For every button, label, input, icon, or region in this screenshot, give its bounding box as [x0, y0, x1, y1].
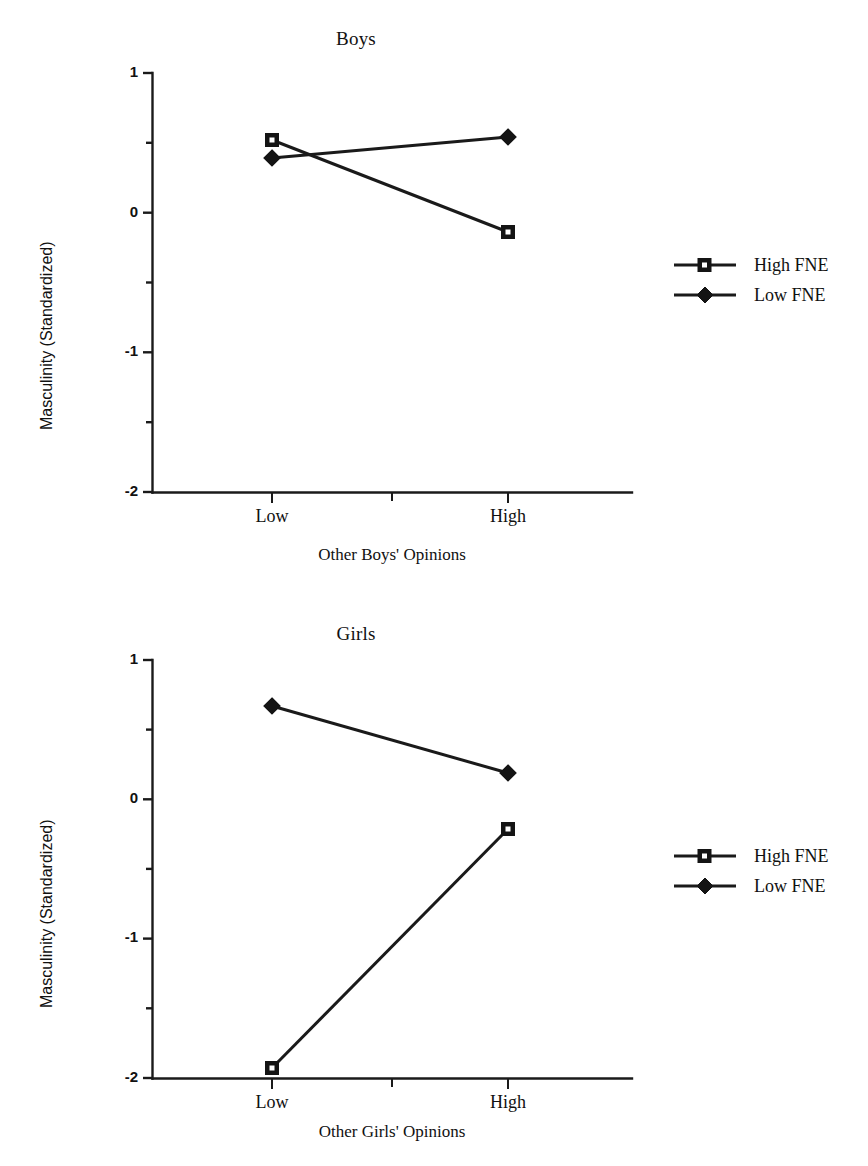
panel-boys-series-low-fne-line: [272, 137, 508, 158]
legend-label-high-fne: High FNE: [738, 846, 829, 867]
legend-row-low-fne: Low FNE: [672, 871, 868, 901]
legend-row-high-fne: High FNE: [672, 841, 868, 871]
panel-boys-legend: High FNE Low FNE: [672, 250, 868, 310]
panel-boys-x-axis-title: Other Boys' Opinions: [192, 545, 592, 565]
panel-girls-xtick-label-low: Low: [227, 1092, 317, 1113]
panel-boys-xtick-label-high: High: [463, 506, 553, 527]
panel-boys-marker-low-fne-high: [500, 129, 516, 145]
legend-sample-low-fne: [672, 874, 738, 898]
legend-sample-high-fne: [672, 253, 738, 277]
panel-girls-marker-high-fne-high: [502, 823, 515, 836]
figure-two-panel-line-charts: Boys Masculinity (Standardized) 1 0 -1 -…: [0, 0, 868, 1166]
panel-boys-marker-low-fne-low: [264, 150, 280, 166]
legend-row-low-fne: Low FNE: [672, 280, 868, 310]
panel-girls-marker-low-fne-high: [500, 765, 516, 781]
legend-sample-low-fne: [672, 283, 738, 307]
panel-girls-xtick-label-high: High: [463, 1092, 553, 1113]
panel-girls-marker-low-fne-low: [264, 698, 280, 714]
panel-girls-legend: High FNE Low FNE: [672, 841, 868, 901]
legend-label-low-fne: Low FNE: [738, 285, 826, 306]
panel-girls-marker-high-fne-low: [266, 1062, 279, 1075]
panel-girls-series-high-fne-line: [272, 829, 508, 1068]
legend-row-high-fne: High FNE: [672, 250, 868, 280]
panel-boys-marker-high-fne-high: [502, 226, 515, 239]
legend-label-high-fne: High FNE: [738, 255, 829, 276]
panel-boys-xtick-label-low: Low: [227, 506, 317, 527]
panel-girls: Girls Masculinity (Standardized) 1 0 -1 …: [0, 588, 868, 1166]
panel-girls-x-axis-title: Other Girls' Opinions: [192, 1122, 592, 1142]
legend-label-low-fne: Low FNE: [738, 876, 826, 897]
legend-sample-high-fne: [672, 844, 738, 868]
panel-boys: Boys Masculinity (Standardized) 1 0 -1 -…: [0, 0, 868, 580]
panel-boys-marker-high-fne-low: [266, 134, 279, 147]
panel-girls-series-low-fne-line: [272, 706, 508, 773]
